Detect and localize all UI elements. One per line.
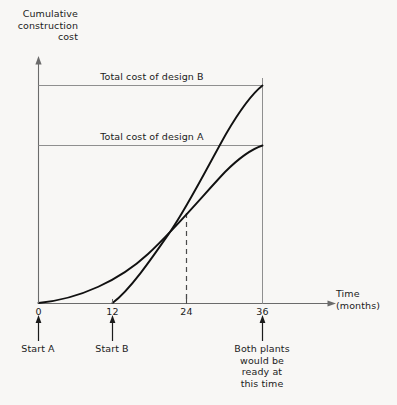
y-axis-label-line-2: construction — [18, 20, 78, 31]
annotation-both-line-3: ready at — [242, 366, 282, 377]
y-axis — [35, 56, 41, 304]
x-axis-label-line-1: Time — [336, 288, 360, 299]
x-tick-label-0: 0 — [19, 306, 59, 318]
y-axis-label: Cumulativeconstructioncost — [0, 8, 78, 43]
y-axis-label-line-1: Cumulative — [23, 8, 78, 19]
annotation-both-line-1: Both plants — [234, 343, 289, 354]
x-axis-label-units: (months) — [336, 300, 380, 311]
x-axis-arrowhead — [328, 300, 337, 306]
annotation-both-line-2: would be — [240, 355, 284, 366]
curve-design-a — [39, 146, 263, 304]
y-axis-arrowhead — [35, 56, 41, 65]
x-tick-label-36: 36 — [243, 306, 283, 318]
annotation-arrow-start-a — [36, 315, 42, 341]
x-tick-label-24: 24 — [167, 306, 207, 318]
y-axis-label-line-3: cost — [58, 31, 78, 42]
annotation-start-b: Start B — [64, 343, 160, 355]
x-axis-label: Time(months) — [336, 288, 396, 311]
curve-design-b — [113, 86, 263, 304]
x-axis-ticks — [39, 294, 263, 304]
annotation-arrow-both-plants — [260, 315, 266, 341]
annotation-both-plants-ready: Both plantswould beready atthis time — [214, 343, 310, 389]
annotation-arrow-start-b — [110, 315, 116, 341]
x-tick-label-12: 12 — [93, 306, 133, 318]
cumulative-construction-cost-chart: Cumulativeconstructioncost Time(months) … — [0, 0, 397, 405]
total-cost-design-a-label: Total cost of design A — [48, 131, 256, 143]
total-cost-design-b-label: Total cost of design B — [48, 71, 256, 83]
annotation-both-line-4: this time — [241, 378, 284, 389]
